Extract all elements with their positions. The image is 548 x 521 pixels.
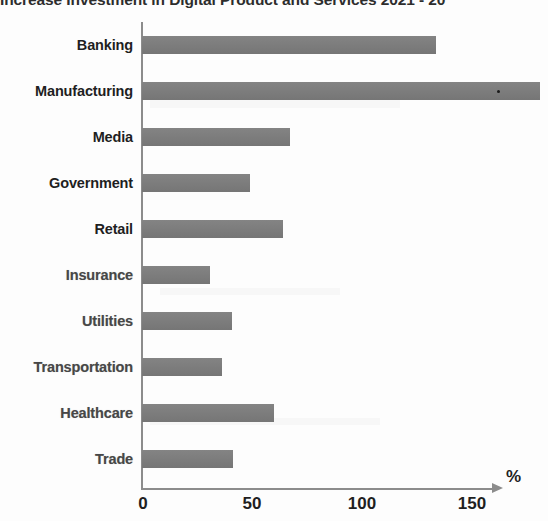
category-label: Retail	[0, 221, 133, 237]
plot-area: Banking Manufacturing Media Government R…	[0, 0, 548, 521]
scan-artifact	[160, 288, 340, 295]
bar-utilities	[142, 312, 232, 330]
bar-insurance	[142, 266, 210, 284]
bar-banking	[142, 36, 436, 54]
bar-government	[142, 174, 250, 192]
category-label: Banking	[0, 37, 133, 53]
x-tick-0: 0	[138, 494, 147, 514]
category-label: Manufacturing	[0, 83, 133, 99]
bar-retail	[142, 220, 283, 238]
bar-transportation	[142, 358, 222, 376]
x-axis-arrow-icon	[492, 483, 503, 493]
bar-media	[142, 128, 290, 146]
category-label: Transportation	[0, 359, 133, 375]
x-tick-150: 150	[458, 494, 486, 514]
bar-healthcare	[142, 404, 274, 422]
x-axis-line	[141, 488, 498, 490]
bar-manufacturing	[142, 82, 540, 100]
x-tick-100: 100	[348, 494, 376, 514]
category-label: Insurance	[0, 267, 133, 283]
scan-speck	[497, 90, 500, 93]
category-label: Government	[0, 175, 133, 191]
bar-trade	[142, 450, 233, 468]
category-label: Trade	[0, 451, 133, 467]
x-axis-unit-label: %	[506, 467, 521, 487]
bar-chart: Increase Investment in Digital Product a…	[0, 0, 548, 521]
category-label: Utilities	[0, 313, 133, 329]
x-tick-50: 50	[243, 494, 262, 514]
category-label: Healthcare	[0, 405, 133, 421]
scan-artifact	[150, 100, 400, 108]
category-label: Media	[0, 129, 133, 145]
